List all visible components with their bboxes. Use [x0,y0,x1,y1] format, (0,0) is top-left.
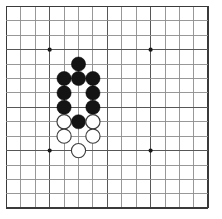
black-stone-f6[interactable] [86,71,100,85]
white-stone-f10[interactable] [86,129,100,143]
black-stone-d8[interactable] [57,100,71,114]
board-background [0,0,222,219]
star-point-2 [48,149,52,153]
black-stone-d7[interactable] [57,86,71,100]
go-board-canvas[interactable] [0,0,222,219]
white-stone-d10[interactable] [57,129,71,143]
star-point-0 [48,48,52,52]
go-board[interactable] [0,0,222,219]
star-point-1 [149,48,153,52]
black-stone-e5[interactable] [71,57,85,71]
black-stone-e9[interactable] [71,115,85,129]
black-stone-f7[interactable] [86,86,100,100]
white-stone-d9[interactable] [57,115,71,129]
white-stone-e11[interactable] [71,144,85,158]
star-point-3 [149,149,153,153]
black-stone-d6[interactable] [57,71,71,85]
black-stone-e6[interactable] [71,71,85,85]
black-stone-f8[interactable] [86,100,100,114]
white-stone-f9[interactable] [86,115,100,129]
